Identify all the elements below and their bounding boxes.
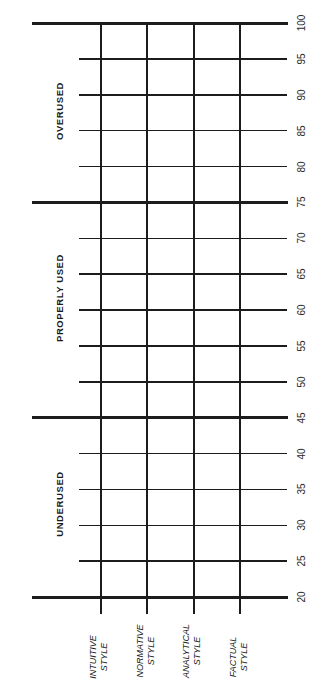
tick-label-40: 40 [296,442,308,466]
tick-label-20: 20 [296,585,308,609]
scale-line-25 [79,560,287,562]
style-column-line-normative [146,23,148,614]
style-column-line-factual [239,23,241,614]
scale-line-35 [79,489,287,491]
style-label-normative: NORMATIVE STYLE [135,621,157,681]
zone-label-overused: OVERUSED [54,71,66,151]
scale-line-30 [79,525,287,527]
scale-line-80 [79,166,287,168]
scale-line-50 [79,381,287,383]
scale-line-85 [79,130,287,132]
scale-line-55 [79,345,287,347]
tick-label-85: 85 [296,119,308,143]
scale-line-100 [32,22,288,25]
tick-label-70: 70 [296,226,308,250]
style-label-normative-line2: STYLE [146,621,157,681]
tick-label-80: 80 [296,155,308,179]
style-label-analytical-line2: STYLE [192,621,203,681]
style-label-analytical: ANALYTICAL STYLE [181,621,203,681]
tick-label-90: 90 [296,83,308,107]
decision-style-scoring-chart: 10095908580757065605550454035302520 OVER… [0,0,323,696]
tick-label-75: 75 [296,190,308,214]
scale-line-45 [32,416,288,419]
tick-label-50: 50 [296,370,308,394]
scale-line-70 [79,238,287,240]
tick-label-55: 55 [296,334,308,358]
scale-line-75 [32,201,288,204]
style-column-line-analytical [193,23,195,614]
zone-label-underused: UNDERUSED [54,464,66,544]
zone-label-properly-used: PROPERLY USED [54,248,66,348]
style-label-normative-line1: NORMATIVE [135,621,146,681]
scale-line-20 [32,596,288,599]
tick-label-95: 95 [296,47,308,71]
style-label-factual: FACTUAL STYLE [228,627,250,687]
style-label-intuitive: INTUITIVE STYLE [88,627,110,687]
tick-label-30: 30 [296,513,308,537]
style-label-factual-line2: STYLE [239,627,250,687]
tick-label-45: 45 [296,406,308,430]
tick-label-35: 35 [296,477,308,501]
scale-line-40 [79,453,287,455]
tick-label-100: 100 [296,11,308,35]
tick-label-25: 25 [296,549,308,573]
tick-label-60: 60 [296,298,308,322]
scale-line-95 [79,58,287,60]
style-label-analytical-line1: ANALYTICAL [181,621,192,681]
tick-label-65: 65 [296,262,308,286]
style-label-intuitive-line2: STYLE [99,627,110,687]
scale-line-60 [79,309,287,311]
scale-line-65 [79,273,287,275]
style-label-factual-line1: FACTUAL [228,627,239,687]
style-column-line-intuitive [100,23,102,614]
style-label-intuitive-line1: INTUITIVE [88,627,99,687]
scale-line-90 [79,94,287,96]
